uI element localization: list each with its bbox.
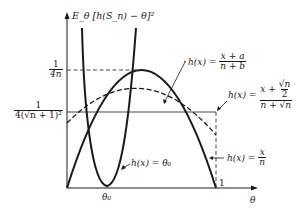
label-minimax: h(x) = x + √n 2 n + √n [228,80,292,110]
x-tick-one: 1 [219,179,225,188]
x-tick-theta0: θ₀ [102,193,111,202]
label-bayes: h(x) = x + a n + b [188,52,246,72]
curve-constant-risk [82,28,136,186]
arrow-icon [163,99,167,104]
arrow-icon [209,156,213,160]
label-constant: h(x) = θ₀ [131,159,171,168]
x-axis-arrow-icon [251,186,258,191]
y-axis-label: E_θ [h(S_n) − θ]² [72,11,154,21]
leader-bayes [164,62,185,103]
y-axis-arrow-icon [65,12,70,19]
arrow-icon [217,106,221,111]
x-axis-label: θ [250,196,255,205]
y-tick-1-over-4n: 1 4n [49,60,63,80]
arrow-icon [121,165,126,170]
label-mle: h(x) = x n [227,148,266,168]
y-tick-minimax-risk: 1 4(√n + 1)² [14,101,63,121]
